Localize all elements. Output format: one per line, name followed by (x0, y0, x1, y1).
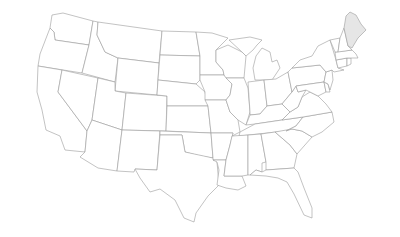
state-new-mexico[interactable]: New Mexico (117, 130, 160, 172)
state-wyoming[interactable]: Wyoming (115, 58, 159, 95)
state-north-dakota[interactable]: North Dakota (160, 31, 200, 56)
state-colorado[interactable]: Colorado (122, 93, 167, 131)
us-map-svg: WashingtonOregonCaliforniaIdahoNevadaMon… (0, 0, 400, 237)
state-kansas[interactable]: Kansas (166, 106, 211, 133)
state-rhode-island[interactable]: Rhode Island (347, 58, 351, 66)
state-florida[interactable]: Florida (250, 168, 312, 218)
state-south-dakota[interactable]: South Dakota (158, 55, 200, 84)
state-maine[interactable]: Maine (344, 12, 366, 48)
us-map: United States WashingtonOregonCalifornia… (0, 0, 400, 237)
